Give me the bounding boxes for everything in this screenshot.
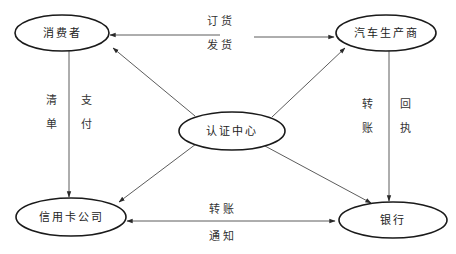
edge-label: 订货 <box>207 14 235 28</box>
node-label: 信用卡公司 <box>39 211 104 224</box>
node-bank: 银行 <box>339 202 447 238</box>
edge-label-char: 回 <box>400 98 414 111</box>
node-manufacturer: 汽车生产商 <box>336 15 436 51</box>
node-label: 认证中心 <box>206 125 258 138</box>
edge-label: 发货 <box>207 38 235 52</box>
node-label: 消费者 <box>43 26 82 40</box>
payment-flow-diagram: 消费者汽车生产商认证中心信用卡公司银行 订货发货清单支付转账回执转账通知 <box>0 0 456 254</box>
edge-cert_center-to-bank <box>265 146 371 203</box>
edge-label-char: 付 <box>81 118 95 131</box>
edge-label-char: 支 <box>81 94 95 107</box>
node-consumer: 消费者 <box>15 15 109 51</box>
node-label: 银行 <box>380 213 406 227</box>
edge-label: 通知 <box>209 229 237 243</box>
diagram-canvas: 消费者汽车生产商认证中心信用卡公司银行 订货发货清单支付转账回执转账通知 <box>0 0 456 254</box>
node-label: 汽车生产商 <box>354 26 419 40</box>
edge-cert_center-to-credit_card_co <box>119 144 196 202</box>
edge-label-char: 执 <box>400 121 414 135</box>
edge-label-char: 账 <box>362 122 376 135</box>
edge-label-char: 转 <box>362 97 376 111</box>
edge-label-char: 单 <box>46 118 60 131</box>
edge-label: 转账 <box>209 202 237 216</box>
node-cert_center: 认证中心 <box>179 112 285 150</box>
node-credit_card_co: 信用卡公司 <box>16 198 126 236</box>
edge-cert_center-to-manufacturer <box>272 48 345 117</box>
edge-label-char: 清 <box>46 94 60 107</box>
edge-cert_center-to-consumer <box>113 48 195 116</box>
